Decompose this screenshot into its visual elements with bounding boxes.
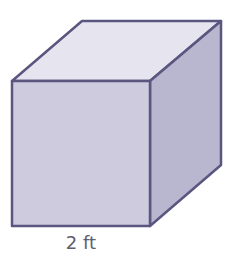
cube-diagram xyxy=(0,0,232,259)
cube-front-face xyxy=(12,81,150,226)
dimension-label: 2 ft xyxy=(0,232,162,254)
